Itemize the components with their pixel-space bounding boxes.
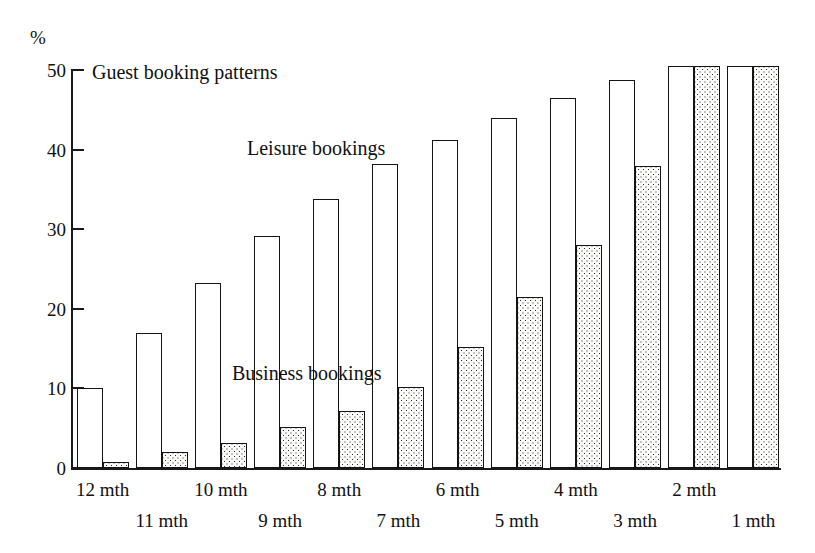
bar-leisure [550, 98, 576, 468]
x-axis-line [71, 468, 781, 470]
y-tick-label-30: 30 [20, 220, 66, 239]
bar-leisure [491, 118, 517, 468]
bar-leisure [609, 80, 635, 468]
x-tick-label: 12 mth [76, 480, 129, 499]
x-tick-label: 2 mth [672, 480, 716, 499]
bar-leisure [136, 333, 162, 468]
bar-business [280, 427, 306, 468]
bar-business [517, 297, 543, 468]
x-tick-label: 10 mth [194, 480, 247, 499]
bar-group [254, 70, 306, 468]
x-tick-label: 3 mth [613, 511, 657, 530]
bar-business [576, 245, 602, 468]
bar-series-container [71, 70, 781, 468]
bar-group [491, 70, 543, 468]
x-tick-label: 9 mth [258, 511, 302, 530]
business-series-label: Business bookings [232, 363, 381, 383]
x-tick-label: 6 mth [436, 480, 480, 499]
bar-group [136, 70, 188, 468]
bar-business [162, 452, 188, 468]
chart-title: Guest booking patterns [92, 62, 278, 82]
bar-leisure [727, 66, 753, 468]
bar-business [458, 347, 484, 468]
x-tick-label: 8 mth [317, 480, 361, 499]
bar-business [103, 462, 129, 468]
x-tick-label: 5 mth [495, 511, 539, 530]
bar-leisure [313, 199, 339, 468]
bar-leisure [254, 236, 280, 468]
bar-leisure [668, 66, 694, 468]
bar-group [550, 70, 602, 468]
bar-group [727, 70, 779, 468]
bar-group [77, 70, 129, 468]
bar-group [372, 70, 424, 468]
chart-screenshot: % 01020304050 12 mth11 mth10 mth9 mth8 m… [0, 0, 815, 553]
x-tick-label: 1 mth [732, 511, 776, 530]
x-tick-label: 11 mth [135, 511, 188, 530]
bar-leisure [372, 164, 398, 468]
bar-business [753, 66, 779, 468]
bar-business [221, 443, 247, 468]
bar-business [694, 66, 720, 468]
bar-group [313, 70, 365, 468]
bar-business [339, 411, 365, 468]
x-tick-label: 7 mth [377, 511, 421, 530]
bar-leisure [432, 140, 458, 468]
y-tick-label-0: 0 [20, 459, 66, 478]
y-tick-label-50: 50 [20, 61, 66, 80]
bar-group [668, 70, 720, 468]
bar-group [195, 70, 247, 468]
bar-group [432, 70, 484, 468]
leisure-series-label: Leisure bookings [247, 138, 385, 158]
bar-group [609, 70, 661, 468]
y-tick-label-10: 10 [20, 379, 66, 398]
y-tick-label-40: 40 [20, 140, 66, 159]
bar-leisure [77, 388, 103, 468]
y-axis-unit-label: % [30, 28, 46, 47]
bar-business [635, 166, 661, 468]
y-tick-label-20: 20 [20, 299, 66, 318]
bar-leisure [195, 283, 221, 468]
bar-business [398, 387, 424, 468]
bar-chart-plot: % 01020304050 12 mth11 mth10 mth9 mth8 m… [0, 0, 815, 553]
x-tick-label: 4 mth [554, 480, 598, 499]
